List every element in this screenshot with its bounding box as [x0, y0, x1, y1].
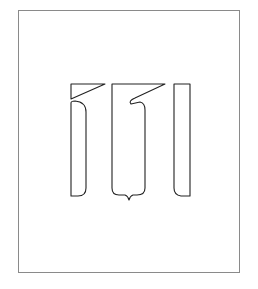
glyph-left-body — [71, 101, 86, 196]
glyph-illustration — [0, 0, 258, 289]
glyph-right-body — [174, 84, 190, 196]
glyph-left-flag — [71, 84, 105, 99]
glyph-middle-body — [112, 84, 165, 200]
